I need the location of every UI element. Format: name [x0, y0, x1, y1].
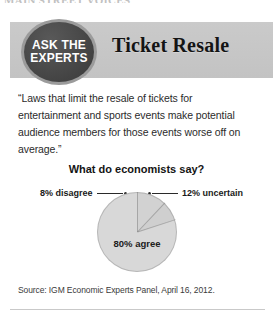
page-title: Ticket Resale — [112, 34, 229, 57]
pie-label-agree: 80% agree — [97, 238, 177, 249]
pie-chart: 80% agree — [97, 192, 177, 272]
ask-the-experts-figure: MAIN STREET VOICES Ticket Resale ASK THE… — [0, 0, 273, 320]
callout-disagree-label: 8% disagree — [40, 188, 93, 198]
bottom-divider — [10, 309, 265, 310]
ask-the-experts-badge: ASK THE EXPERTS — [21, 19, 97, 85]
badge-line-2: EXPERTS — [30, 52, 87, 66]
pie-separator-1 — [137, 192, 138, 232]
question-heading: What do economists say? — [0, 163, 273, 175]
source-note: Source: IGM Economic Experts Panel, Apri… — [18, 285, 215, 295]
badge-line-1: ASK THE — [32, 39, 86, 53]
callout-uncertain-label: 12% uncertain — [182, 188, 243, 198]
clipped-headline-text: MAIN STREET VOICES — [4, 0, 204, 3]
badge-disc: ASK THE EXPERTS — [24, 22, 94, 82]
quote-text: “Laws that limit the resale of tickets f… — [18, 90, 258, 158]
